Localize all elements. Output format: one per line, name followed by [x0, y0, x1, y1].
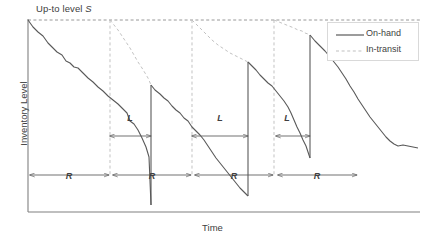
legend-entry-on-hand: On-hand — [328, 27, 420, 43]
in-transit-series — [110, 20, 310, 175]
chart-title: Up-to level S — [36, 3, 92, 14]
review-period-label-3: R — [224, 171, 244, 181]
review-period-label-1: R — [59, 171, 79, 181]
review-period-label-4: R — [307, 171, 327, 181]
review-period-label-2: R — [142, 171, 162, 181]
chart-title-symbol: S — [85, 3, 91, 14]
lead-time-label-3: L — [278, 113, 296, 123]
chart-title-text: Up-to level — [36, 3, 85, 14]
legend-entry-in-transit: In-transit — [328, 43, 420, 59]
legend-swatch-in-transit — [334, 44, 366, 58]
legend-label-on-hand: On-hand — [366, 28, 401, 38]
in-transit-decay-1 — [110, 20, 151, 85]
lead-time-label-2: L — [211, 113, 229, 123]
y-axis-label: Inventory Level — [18, 39, 29, 189]
lead-time-label-1: L — [121, 113, 139, 123]
chart-legend: On-hand In-transit — [327, 22, 419, 61]
inventory-level-chart: Up-to level S Time Inventory Level R R R… — [0, 0, 425, 238]
x-axis-label: Time — [0, 222, 425, 233]
in-transit-decay-2 — [192, 20, 248, 62]
legend-label-in-transit: In-transit — [366, 44, 401, 54]
on-hand-cycle-3 — [248, 62, 310, 158]
in-transit-decay-3 — [274, 20, 310, 35]
legend-swatch-on-hand — [334, 28, 366, 42]
